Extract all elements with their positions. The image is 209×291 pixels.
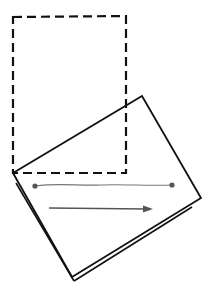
thickness-edge-bottom: [74, 207, 192, 281]
segment-point-end: [169, 182, 174, 187]
direction-arrow-head-icon: [143, 206, 153, 213]
original-rectangle-dashed: [13, 16, 126, 173]
point-segment-line: [35, 185, 172, 186]
direction-arrow-shaft: [49, 208, 146, 209]
thickness-edge-left: [16, 183, 74, 281]
rotation-diagram: [0, 0, 209, 291]
segment-point-start: [32, 183, 37, 188]
